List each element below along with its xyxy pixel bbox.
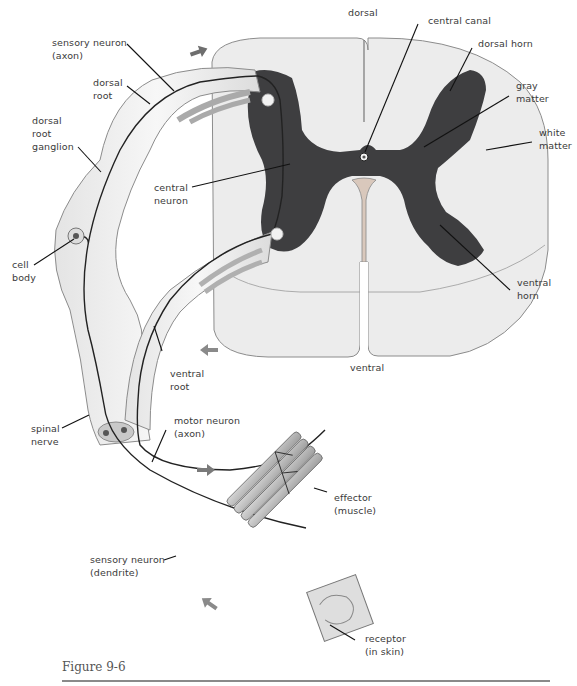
- label-dorsal-root-ganglion: dorsal root ganglion: [32, 114, 74, 153]
- label-dorsal: dorsal: [348, 6, 378, 19]
- spinal-nerve-cut-end: [98, 422, 134, 442]
- label-receptor-in-skin: receptor (in skin): [365, 632, 406, 658]
- label-dorsal-horn: dorsal horn: [478, 37, 533, 50]
- spinal-cord: [212, 38, 548, 357]
- central-neuron-cell-body: [262, 94, 274, 106]
- label-gray-matter: gray matter: [516, 79, 549, 105]
- label-dorsal-root: dorsal root: [93, 76, 123, 102]
- impulse-arrow-sensory-axon: [188, 43, 209, 60]
- label-motor-neuron-axon: motor neuron (axon): [174, 414, 240, 440]
- label-ventral: ventral: [350, 361, 384, 374]
- label-cell-body: cell body: [12, 258, 36, 284]
- label-white-matter: white matter: [539, 126, 572, 152]
- impulse-arrow-dendrite: [198, 593, 220, 613]
- reflex-arc-diagram: [0, 0, 577, 686]
- label-central-canal: central canal: [428, 14, 491, 27]
- label-sensory-neuron-axon: sensory neuron (axon): [52, 36, 127, 62]
- caption-rule: [62, 680, 550, 682]
- label-ventral-root: ventral root: [170, 367, 204, 393]
- impulse-arrow-motor-axon: [197, 464, 215, 476]
- label-sensory-neuron-dendrite: sensory neuron (dendrite): [90, 553, 165, 579]
- impulse-arrow-ventral-root: [200, 344, 218, 356]
- label-effector-muscle: effector (muscle): [334, 491, 376, 517]
- label-spinal-nerve: spinal nerve: [31, 422, 60, 448]
- label-ventral-horn: ventral horn: [517, 276, 551, 302]
- motor-neuron-cell-body: [271, 228, 283, 240]
- label-central-neuron: central neuron: [154, 181, 188, 207]
- figure-caption: Figure 9-6: [62, 660, 126, 674]
- effector-muscle: [226, 431, 325, 530]
